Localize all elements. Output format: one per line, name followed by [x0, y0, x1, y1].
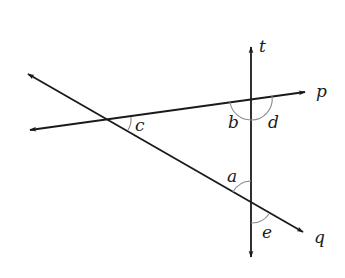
label-p: p: [316, 81, 327, 101]
label-t: t: [259, 36, 266, 56]
angle-c-arc: [128, 117, 131, 130]
label-angle-a: a: [227, 166, 237, 186]
label-q: q: [314, 227, 325, 247]
label-angle-d: d: [268, 112, 279, 132]
label-angle-e: e: [262, 222, 272, 242]
label-angle-c: c: [135, 115, 145, 135]
line-p: [30, 92, 305, 130]
geometry-diagram: t p q c b d a e: [0, 0, 345, 278]
label-angle-b: b: [228, 112, 239, 132]
